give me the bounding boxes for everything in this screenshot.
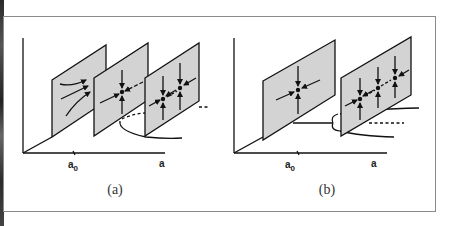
panel-b-a0-tick — [297, 151, 299, 155]
bifurcation-diagram: a0 a (a) — [0, 0, 458, 226]
panel-b-a0-label: a0 — [285, 159, 296, 173]
panel-b-caption: (b) — [319, 182, 336, 198]
panel-a-a0-label: a0 — [68, 159, 79, 173]
panel-a — [23, 38, 208, 155]
panel-a-x-axis-label: a — [159, 158, 165, 169]
panel-b-x-axis-label: a — [371, 158, 377, 169]
panel-b-plane-2 — [341, 37, 411, 136]
panel-a-plane-3 — [145, 43, 199, 136]
panel-a-caption: (a) — [107, 182, 123, 198]
panel-b-depth-axis — [234, 137, 263, 153]
panel-b — [234, 37, 419, 155]
panel-a-depth-axis — [23, 137, 52, 153]
panel-a-a0-tick — [73, 151, 75, 155]
